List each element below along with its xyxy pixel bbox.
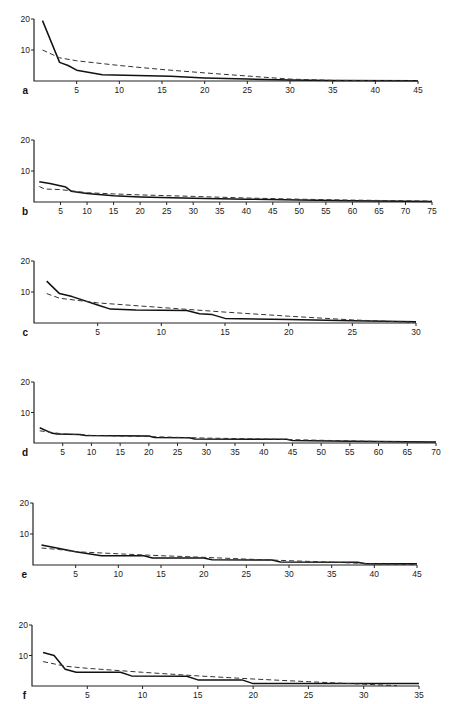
axes [34,382,436,443]
x-tick-label: 30 [285,85,295,95]
panel-label: e [21,569,27,580]
x-tick-label: 30 [411,327,421,337]
series-expected-line [43,50,419,81]
x-tick-label: 10 [157,327,167,337]
panel-e: 102051015202530354045e [20,498,422,580]
x-tick-label: 15 [220,327,230,337]
x-tick-label: 15 [193,690,203,700]
x-tick-label: 35 [414,690,424,700]
x-tick-label: 35 [215,206,225,216]
x-tick-label: 25 [173,447,183,457]
figure-canvas: 102051015202530354045a102051015202530354… [0,0,455,704]
x-tick-label: 30 [284,569,294,579]
x-tick-label: 10 [114,569,124,579]
y-tick-label: 20 [21,135,31,145]
y-tick-label: 20 [19,620,29,630]
y-tick-label: 10 [21,408,31,418]
x-tick-label: 25 [348,327,358,337]
axes [34,140,432,202]
multi-panel-line-figure: 102051015202530354045a102051015202530354… [0,0,455,704]
x-tick-label: 20 [284,327,294,337]
x-tick-label: 50 [316,447,326,457]
x-tick-label: 25 [243,85,253,95]
x-tick-label: 10 [138,690,148,700]
x-tick-label: 20 [248,690,258,700]
x-tick-label: 45 [268,206,278,216]
x-tick-label: 5 [73,569,78,579]
x-tick-label: 35 [230,447,240,457]
panel-label: a [22,85,28,96]
panel-f: 10205101520253035f [19,620,424,701]
x-tick-label: 40 [259,447,269,457]
axes [34,19,418,81]
panel-d: 1020510152025303540455055606570d [21,377,441,458]
x-tick-label: 30 [359,690,369,700]
x-tick-label: 45 [413,85,423,95]
x-tick-label: 45 [412,569,422,579]
y-tick-label: 10 [19,651,29,661]
series-observed-line [40,428,436,442]
x-tick-label: 55 [345,447,355,457]
x-tick-label: 5 [58,206,63,216]
x-tick-label: 30 [202,447,212,457]
axes [32,625,419,686]
series-observed-line [43,653,419,684]
x-tick-label: 40 [370,569,380,579]
x-tick-label: 55 [321,206,331,216]
axes [33,503,417,565]
panel-label: b [22,206,28,217]
y-tick-label: 20 [20,498,30,508]
x-tick-label: 70 [401,206,411,216]
y-tick-label: 10 [20,529,30,539]
x-tick-label: 70 [431,447,441,457]
panel-label: f [23,690,27,701]
x-tick-label: 65 [374,206,384,216]
y-tick-label: 20 [21,256,31,266]
x-tick-label: 35 [328,85,338,95]
panel-label: c [22,327,28,338]
x-tick-label: 25 [304,690,314,700]
x-tick-label: 5 [74,85,79,95]
x-tick-label: 45 [288,447,298,457]
series-observed-line [39,182,432,202]
x-tick-label: 50 [295,206,305,216]
x-tick-label: 5 [60,447,65,457]
x-tick-label: 40 [371,85,381,95]
x-tick-label: 15 [109,206,119,216]
x-tick-label: 65 [403,447,413,457]
axes [34,261,416,323]
y-tick-label: 20 [21,377,31,387]
x-tick-label: 15 [115,447,125,457]
series-expected-line [43,662,397,686]
y-tick-label: 10 [21,287,31,297]
x-tick-label: 15 [157,85,167,95]
panel-a: 102051015202530354045a [21,14,423,96]
x-tick-label: 30 [188,206,198,216]
x-tick-label: 20 [135,206,145,216]
x-tick-label: 10 [87,447,97,457]
panel-b: 102051015202530354045505560657075b [21,135,437,217]
series-expected-line [40,431,436,443]
series-observed-line [42,545,418,564]
panel-label: d [22,447,28,458]
x-tick-label: 10 [82,206,92,216]
y-tick-label: 10 [21,45,31,55]
x-tick-label: 10 [115,85,125,95]
series-observed-line [47,281,416,322]
x-tick-label: 5 [85,690,90,700]
x-tick-label: 20 [200,85,210,95]
x-tick-label: 25 [162,206,172,216]
x-tick-label: 20 [199,569,209,579]
panel-c: 102051015202530c [21,256,421,338]
y-tick-label: 20 [21,14,31,24]
x-tick-label: 60 [348,206,358,216]
x-tick-label: 20 [144,447,154,457]
x-tick-label: 25 [242,569,252,579]
series-observed-line [43,21,419,81]
x-tick-label: 15 [156,569,166,579]
x-tick-label: 35 [327,569,337,579]
y-tick-label: 10 [21,166,31,176]
x-tick-label: 75 [427,206,437,216]
x-tick-label: 40 [242,206,252,216]
x-tick-label: 5 [95,327,100,337]
